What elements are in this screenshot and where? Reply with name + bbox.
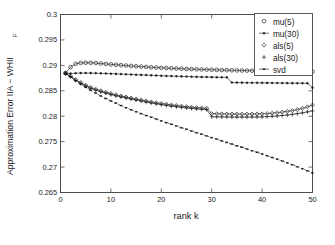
data-point — [260, 115, 264, 119]
y-tick-label: 0.275 — [39, 137, 58, 146]
data-point — [185, 75, 187, 77]
data-point — [246, 82, 248, 84]
data-point — [145, 74, 147, 76]
y-axis-title: Approximation Error IIA − WHII F — [5, 33, 18, 175]
x-tick-30: 30 — [208, 15, 216, 205]
data-point — [160, 120, 162, 121]
data-point — [221, 76, 223, 78]
y-tick-label: 0.285 — [39, 86, 58, 95]
data-point — [291, 82, 293, 84]
data-point — [226, 142, 228, 143]
data-point — [256, 82, 258, 84]
data-point — [220, 115, 224, 119]
legend-item-als30[interactable]: als(30) — [273, 54, 298, 63]
data-point — [160, 75, 162, 77]
legend-item-svd[interactable]: svd — [273, 66, 286, 75]
data-point — [150, 74, 152, 76]
data-point — [196, 76, 198, 78]
x-tick-label: 20 — [157, 195, 165, 204]
data-point — [105, 72, 107, 74]
series-layer — [63, 61, 314, 174]
data-point — [115, 103, 117, 104]
data-point — [206, 76, 208, 78]
data-point — [271, 82, 273, 84]
data-point — [120, 105, 122, 106]
data-point — [285, 113, 289, 117]
data-point — [120, 73, 122, 75]
line-chart: Approximation Error IIA − WHII F 0.265 0… — [0, 0, 335, 245]
data-point — [85, 72, 87, 74]
data-point — [231, 144, 233, 145]
data-point — [300, 111, 304, 115]
data-point — [251, 150, 253, 151]
data-point — [275, 114, 279, 118]
data-point — [211, 76, 213, 78]
data-point — [201, 76, 203, 78]
data-point — [95, 93, 97, 94]
data-point — [290, 112, 294, 116]
x-tick-label: 30 — [208, 195, 216, 204]
data-point — [270, 114, 274, 118]
data-point — [85, 87, 87, 88]
data-point — [135, 111, 137, 112]
data-point — [261, 82, 263, 84]
x-tick-10: 10 — [107, 15, 115, 205]
y-tick-label: 0.28 — [43, 112, 57, 121]
legend-marker-mu30 — [263, 32, 265, 34]
data-point — [256, 152, 258, 153]
data-point — [230, 115, 234, 119]
data-point — [235, 115, 239, 119]
data-point — [64, 73, 66, 74]
data-point — [75, 72, 77, 74]
data-point — [130, 109, 132, 110]
data-point — [201, 134, 203, 135]
legend-item-als5[interactable]: als(5) — [273, 42, 294, 51]
data-point — [216, 76, 218, 78]
y-tick-0.27: 0.27 — [43, 163, 313, 172]
data-point — [80, 72, 82, 74]
data-point — [155, 74, 157, 76]
data-point — [195, 132, 197, 133]
x-tick-label: 0 — [58, 195, 62, 204]
data-point — [140, 74, 142, 76]
data-point — [245, 115, 249, 119]
data-point — [80, 84, 82, 85]
y-tick-label: 0.295 — [39, 35, 58, 44]
x-tick-label: 10 — [107, 195, 115, 204]
data-point — [301, 168, 303, 169]
data-point — [240, 115, 244, 119]
data-point — [250, 115, 254, 119]
x-tick-label: 40 — [258, 195, 266, 204]
data-point — [261, 154, 263, 155]
data-point — [246, 148, 248, 149]
data-point — [296, 166, 298, 167]
y-tick-label: 0.3 — [47, 10, 57, 19]
data-point — [110, 100, 112, 101]
data-point — [305, 110, 309, 114]
y-tick-label: 0.265 — [39, 188, 58, 197]
y-axis-title-subscript: F — [11, 33, 18, 37]
data-point — [175, 75, 177, 77]
data-point — [255, 115, 259, 119]
data-point — [251, 82, 253, 84]
data-point — [211, 137, 213, 138]
data-point — [95, 72, 97, 74]
data-point — [145, 115, 147, 116]
data-point — [125, 73, 127, 75]
data-point — [231, 81, 233, 83]
data-point — [241, 82, 243, 84]
data-point — [301, 82, 303, 84]
data-point — [185, 129, 187, 130]
legend[interactable]: mu(5) mu(30) als(5) als(30) svd — [255, 14, 313, 76]
data-point — [140, 113, 142, 114]
data-point — [190, 131, 192, 132]
data-point — [180, 75, 182, 77]
data-point — [180, 127, 182, 128]
data-point — [216, 139, 218, 140]
data-point — [226, 76, 228, 78]
data-point — [75, 80, 77, 81]
legend-item-mu5[interactable]: mu(5) — [273, 18, 295, 27]
legend-item-mu30[interactable]: mu(30) — [273, 30, 299, 39]
data-point — [291, 164, 293, 165]
data-point — [276, 159, 278, 160]
